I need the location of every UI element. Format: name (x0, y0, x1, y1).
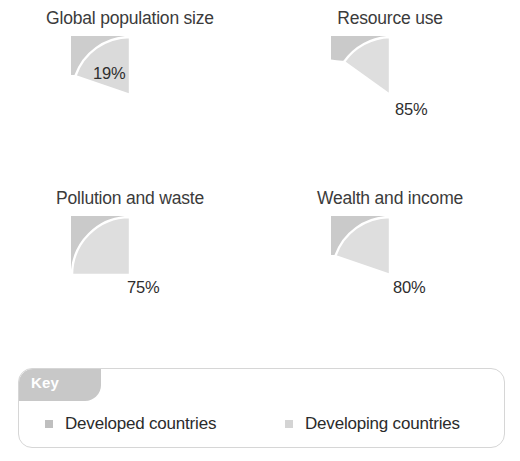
pie-pollution-and-waste: 75% (71, 216, 189, 334)
legend-item-developing: Developing countries (285, 407, 460, 441)
key-box: Key Developed countries Developing count… (18, 368, 505, 448)
pie-chart-grid: Global population size 19% Resource use … (0, 0, 520, 360)
legend-swatch-icon (45, 420, 53, 428)
legend-label: Developing countries (305, 414, 460, 434)
chart-title: Resource use (260, 8, 520, 29)
chart-global-population-size: Global population size 19% (0, 0, 260, 180)
pie-wealth-and-income: 80% (331, 216, 449, 334)
pie-resource-use: 85% (331, 36, 449, 154)
chart-pollution-and-waste: Pollution and waste 75% (0, 180, 260, 360)
pie-value-label: 80% (393, 278, 425, 297)
chart-wealth-and-income: Wealth and income 80% (260, 180, 520, 360)
key-tab-label: Key (31, 374, 59, 391)
chart-resource-use: Resource use 85% (260, 0, 520, 180)
pie-value-label: 85% (395, 100, 427, 119)
chart-title: Wealth and income (260, 188, 520, 209)
key-tab: Key (19, 369, 101, 401)
legend-item-developed: Developed countries (45, 407, 216, 441)
chart-title: Global population size (0, 8, 260, 29)
legend: Developed countries Developing countries (19, 407, 506, 441)
pie-value-label: 75% (127, 278, 159, 297)
legend-swatch-icon (285, 420, 293, 428)
pie-value-label: 19% (93, 64, 125, 83)
chart-title: Pollution and waste (0, 188, 260, 209)
pie-global-population-size: 19% (71, 36, 189, 154)
legend-label: Developed countries (65, 414, 216, 434)
